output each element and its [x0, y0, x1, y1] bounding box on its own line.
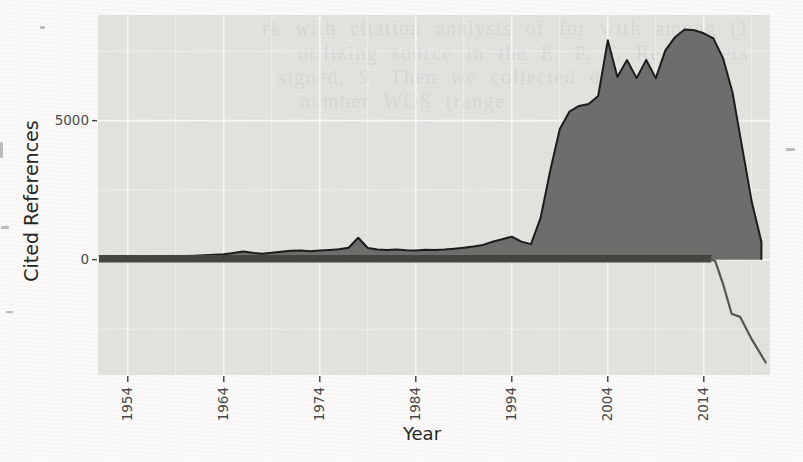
x-tick-label: 1964 [215, 387, 231, 421]
x-tick-label: 1984 [407, 387, 423, 421]
y-axis-title: Cited References [20, 120, 42, 281]
x-tick-label: 1994 [503, 387, 519, 421]
x-tick-label: 2014 [695, 387, 711, 421]
x-tick-label: 1974 [311, 387, 327, 421]
x-tick-label: 2004 [599, 387, 615, 421]
scanned-page: rk with citation analysis of for with am… [0, 0, 803, 462]
y-axis: 05000 [55, 112, 97, 267]
cited-references-chart: 195419641974198419942004201405000YearCit… [0, 0, 803, 462]
x-axis-title: Year [402, 423, 442, 444]
chart-svg: 195419641974198419942004201405000YearCit… [0, 0, 803, 462]
y-tick-label: 5000 [55, 112, 89, 128]
x-axis: 1954196419741984199420042014 [119, 376, 711, 421]
y-tick-label: 0 [80, 251, 89, 267]
x-tick-label: 1954 [119, 387, 135, 421]
